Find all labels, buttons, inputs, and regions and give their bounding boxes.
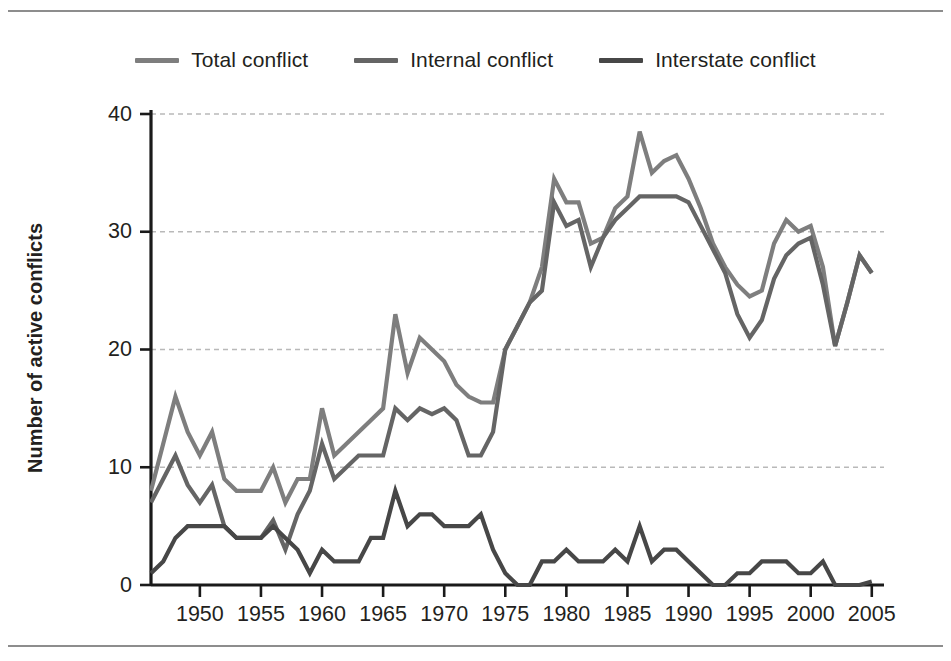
x-tick-label: 1950 [176, 602, 224, 626]
plot-area-wrapper: 010203040 195019551960196519701975198019… [0, 0, 951, 661]
x-tick-label: 1995 [726, 602, 774, 626]
gridlines-group [151, 114, 884, 467]
x-tick-label: 1955 [237, 602, 285, 626]
x-tick-label: 1980 [542, 602, 590, 626]
axis-lines-group [151, 110, 884, 585]
y-axis-title: Number of active conflicts [24, 223, 46, 473]
figure-container: Total conflict Internal conflict Interst… [0, 0, 951, 661]
y-tick-label: 20 [108, 337, 132, 361]
x-tick-label: 1985 [604, 602, 652, 626]
y-tick-label: 0 [120, 573, 132, 597]
y-tick-label: 40 [108, 102, 132, 126]
series-line-interstate-conflict [151, 491, 872, 585]
y-tick-labels-group: 010203040 [108, 102, 132, 597]
x-tick-label: 2005 [848, 602, 896, 626]
x-tick-label: 1975 [481, 602, 529, 626]
y-tick-label: 10 [108, 455, 132, 479]
line-chart: 010203040 195019551960196519701975198019… [0, 0, 951, 661]
x-tick-label: 1990 [665, 602, 713, 626]
x-tick-label: 1960 [298, 602, 346, 626]
x-tick-label: 1970 [420, 602, 468, 626]
x-tick-label: 1965 [359, 602, 407, 626]
x-tick-label: 2000 [787, 602, 835, 626]
series-line-internal-conflict [151, 196, 872, 549]
x-tick-labels-group: 1950195519601965197019751980198519901995… [176, 602, 896, 626]
y-tick-label: 30 [108, 219, 132, 243]
data-series-group [151, 132, 872, 585]
